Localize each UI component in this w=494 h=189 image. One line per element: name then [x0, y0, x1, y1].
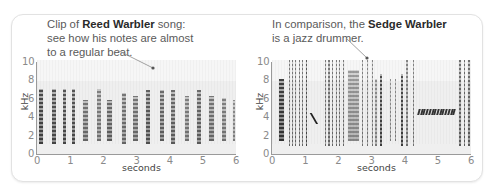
sedge-warbler-pointer	[346, 38, 369, 60]
annotation-arrows	[0, 0, 494, 189]
reed-warbler-pointer	[117, 50, 155, 70]
